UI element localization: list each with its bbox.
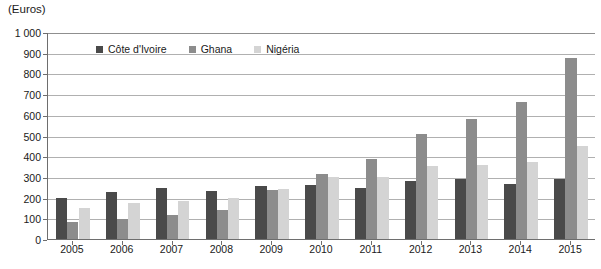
x-axis-tick-label: 2007	[147, 244, 197, 255]
bar-nig-ria-2013	[477, 165, 488, 239]
x-axis-tick-label: 2006	[97, 244, 147, 255]
x-axis-tick-label: 2015	[545, 244, 595, 255]
y-axis-tick-label: 1 000	[0, 28, 41, 39]
bar-c-te-d-ivoire-2005	[56, 198, 67, 239]
x-axis-tick-label: 2005	[47, 244, 97, 255]
bar-nig-ria-2012	[427, 166, 438, 239]
y-axis-tick-mark	[43, 157, 47, 158]
y-axis-tick-label: 300	[0, 173, 41, 184]
bar-c-te-d-ivoire-2006	[106, 192, 117, 239]
legend-item-c-te-d-ivoire: Côte d'Ivoire	[96, 43, 167, 55]
bar-c-te-d-ivoire-2014	[504, 184, 515, 239]
bar-nig-ria-2011	[377, 177, 388, 239]
chart-legend: Côte d'IvoireGhanaNigéria	[96, 43, 299, 55]
legend-swatch-icon	[96, 46, 103, 53]
bar-ghana-2011	[366, 159, 377, 239]
bar-ghana-2010	[316, 174, 327, 239]
x-axis-tick-label: 2013	[446, 244, 496, 255]
y-axis-tick-label: 600	[0, 111, 41, 122]
bar-ghana-2014	[516, 102, 527, 239]
bar-c-te-d-ivoire-2015	[554, 179, 565, 239]
x-axis-tick-label: 2014	[495, 244, 545, 255]
legend-swatch-icon	[254, 46, 261, 53]
x-axis-tick-label: 2011	[346, 244, 396, 255]
legend-swatch-icon	[189, 46, 196, 53]
bar-c-te-d-ivoire-2007	[156, 188, 167, 239]
bar-nig-ria-2009	[278, 189, 289, 239]
bar-ghana-2005	[67, 222, 78, 239]
y-axis-tick-label: 400	[0, 152, 41, 163]
bar-c-te-d-ivoire-2013	[455, 179, 466, 239]
y-axis-tick-label: 900	[0, 48, 41, 59]
y-axis-unit-caption: (Euros)	[8, 2, 46, 16]
bar-c-te-d-ivoire-2008	[206, 191, 217, 239]
x-axis-tick-label: 2008	[196, 244, 246, 255]
legend-label: Ghana	[201, 43, 233, 55]
y-axis-tick-mark	[43, 116, 47, 117]
bar-c-te-d-ivoire-2011	[355, 188, 366, 239]
bar-ghana-2006	[117, 219, 128, 239]
y-axis-tick-mark	[43, 33, 47, 34]
bar-ghana-2015	[565, 58, 576, 239]
y-axis-tick-mark	[43, 74, 47, 75]
bar-nig-ria-2008	[228, 198, 239, 239]
bar-c-te-d-ivoire-2010	[305, 185, 316, 239]
y-axis-tick-label: 800	[0, 69, 41, 80]
bar-nig-ria-2015	[577, 146, 588, 239]
y-axis-tick-label: 700	[0, 90, 41, 101]
bar-ghana-2009	[267, 190, 278, 239]
plot-area	[47, 33, 595, 240]
y-axis-tick-mark	[43, 199, 47, 200]
y-axis-tick-label: 100	[0, 214, 41, 225]
y-axis-tick-mark	[43, 219, 47, 220]
bar-ghana-2008	[217, 210, 228, 239]
y-axis-tick-mark	[43, 95, 47, 96]
bar-c-te-d-ivoire-2009	[255, 186, 266, 239]
legend-label: Nigéria	[266, 43, 299, 55]
bar-nig-ria-2005	[79, 208, 90, 239]
bar-ghana-2012	[416, 134, 427, 239]
x-axis-tick-label: 2012	[396, 244, 446, 255]
bar-nig-ria-2010	[328, 177, 339, 239]
bar-chart: (Euros) 01002003004005006007008009001 00…	[0, 0, 601, 269]
y-axis-tick-label: 200	[0, 193, 41, 204]
bar-c-te-d-ivoire-2012	[405, 181, 416, 239]
y-axis-tick-mark	[43, 54, 47, 55]
bar-nig-ria-2006	[128, 203, 139, 239]
bar-ghana-2007	[167, 215, 178, 239]
y-axis-tick-mark	[43, 240, 47, 241]
legend-item-ghana: Ghana	[189, 43, 233, 55]
y-axis-tick-mark	[43, 137, 47, 138]
y-axis-tick-label: 500	[0, 131, 41, 142]
x-axis-tick-label: 2009	[246, 244, 296, 255]
legend-item-nig-ria: Nigéria	[254, 43, 299, 55]
legend-label: Côte d'Ivoire	[108, 43, 167, 55]
y-axis-tick-mark	[43, 178, 47, 179]
bar-ghana-2013	[466, 119, 477, 239]
x-axis-tick-label: 2010	[296, 244, 346, 255]
bar-nig-ria-2007	[178, 201, 189, 239]
bars-layer	[48, 33, 595, 239]
y-axis-tick-label: 0	[0, 235, 41, 246]
bar-nig-ria-2014	[527, 162, 538, 239]
